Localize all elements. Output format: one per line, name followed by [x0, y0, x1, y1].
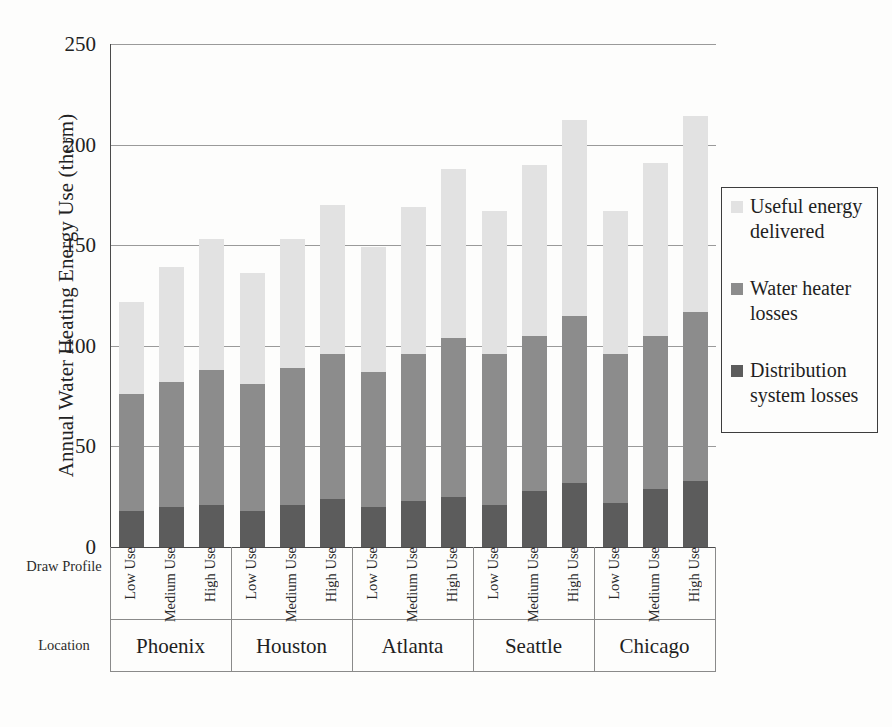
- bar-segment-water-heater-losses: [159, 382, 184, 507]
- bar-segment-useful-energy: [441, 169, 466, 338]
- bar-segment-useful-energy: [562, 120, 587, 315]
- plot-area: [110, 44, 715, 547]
- bar-segment-distribution-losses: [199, 505, 224, 547]
- category-group-divider: [352, 547, 353, 672]
- draw-profile-label: High Use: [323, 547, 340, 605]
- legend-label: Distribution system losses: [750, 358, 877, 408]
- bar-segment-distribution-losses: [522, 491, 547, 547]
- draw-profile-label: High Use: [565, 547, 582, 605]
- bar-stack[interactable]: [522, 165, 547, 547]
- draw-profile-label: Low Use: [364, 547, 381, 603]
- draw-profile-label: Medium Use: [646, 547, 663, 625]
- legend-swatch-icon: [731, 201, 743, 213]
- category-group-divider: [231, 547, 232, 672]
- bar-stack[interactable]: [683, 116, 708, 547]
- bar-stack[interactable]: [482, 211, 507, 547]
- bar-segment-water-heater-losses: [441, 338, 466, 497]
- y-tick-label-50: 50: [34, 434, 96, 459]
- location-cell-seattle: Seattle: [473, 620, 594, 672]
- bar-segment-useful-energy: [482, 211, 507, 354]
- legend-swatch-icon: [731, 283, 743, 295]
- bar-segment-water-heater-losses: [643, 336, 668, 489]
- draw-profile-header-label: Draw Profile: [20, 558, 108, 575]
- legend-swatch-icon: [731, 365, 743, 377]
- bar-segment-useful-energy: [401, 207, 426, 354]
- bar-stack[interactable]: [361, 247, 386, 547]
- chart-figure: Annual Water Heating Energy Use (therm) …: [0, 0, 892, 727]
- bar-stack[interactable]: [401, 207, 426, 547]
- bar-segment-water-heater-losses: [401, 354, 426, 501]
- location-cell-chicago: Chicago: [594, 620, 715, 672]
- bar-segment-useful-energy: [361, 247, 386, 372]
- bar-segment-water-heater-losses: [119, 394, 144, 511]
- location-cell-houston: Houston: [231, 620, 352, 672]
- y-axis-tick-labels: 050100150200250: [34, 0, 96, 727]
- bar-segment-distribution-losses: [361, 507, 386, 547]
- bar-segment-water-heater-losses: [240, 384, 265, 511]
- bar-stack[interactable]: [199, 239, 224, 547]
- bar-segment-distribution-losses: [159, 507, 184, 547]
- legend-label: Useful energy delivered: [750, 194, 877, 244]
- bar-segment-water-heater-losses: [361, 372, 386, 507]
- draw-profile-cell: Medium Use: [271, 547, 311, 620]
- bar-stack[interactable]: [159, 267, 184, 547]
- draw-profile-label: Medium Use: [525, 547, 542, 625]
- category-table-right-edge: [715, 547, 716, 672]
- draw-profile-label: Low Use: [122, 547, 139, 603]
- location-cell-atlanta: Atlanta: [352, 620, 473, 672]
- draw-profile-label: Medium Use: [404, 547, 421, 625]
- draw-profile-cell: Low Use: [594, 547, 634, 620]
- draw-profile-label: Medium Use: [162, 547, 179, 625]
- bar-segment-useful-energy: [240, 273, 265, 384]
- draw-profile-cell: Medium Use: [513, 547, 553, 620]
- bar-stack[interactable]: [240, 273, 265, 547]
- bar-segment-useful-energy: [119, 302, 144, 395]
- bar-stack[interactable]: [280, 239, 305, 547]
- bar-stack[interactable]: [441, 169, 466, 547]
- bar-segment-distribution-losses: [643, 489, 668, 547]
- draw-profile-cell: High Use: [433, 547, 473, 620]
- bar-segment-water-heater-losses: [522, 336, 547, 491]
- legend-entry[interactable]: Useful energy delivered: [731, 194, 877, 244]
- y-tick-label-150: 150: [34, 233, 96, 258]
- bar-stack[interactable]: [119, 302, 144, 547]
- draw-profile-label: Low Use: [606, 547, 623, 603]
- draw-profile-cell: Medium Use: [634, 547, 674, 620]
- bar-segment-useful-energy: [643, 163, 668, 336]
- draw-profile-label: High Use: [686, 547, 703, 605]
- draw-profile-cell: Low Use: [231, 547, 271, 620]
- draw-profile-cell: High Use: [191, 547, 231, 620]
- draw-profile-cell: Medium Use: [392, 547, 432, 620]
- bar-segment-water-heater-losses: [320, 354, 345, 499]
- bar-segment-useful-energy: [522, 165, 547, 336]
- bar-segment-distribution-losses: [441, 497, 466, 547]
- bar-segment-distribution-losses: [240, 511, 265, 547]
- bar-segment-useful-energy: [603, 211, 628, 354]
- y-tick-label-0: 0: [34, 535, 96, 560]
- bar-segment-useful-energy: [320, 205, 345, 354]
- bar-stack[interactable]: [562, 120, 587, 547]
- legend-label: Water heater losses: [750, 276, 877, 326]
- bar-segment-water-heater-losses: [562, 316, 587, 483]
- bar-segment-water-heater-losses: [683, 312, 708, 481]
- bar-stack[interactable]: [320, 205, 345, 547]
- legend-entry[interactable]: Distribution system losses: [731, 358, 877, 408]
- bar-segment-distribution-losses: [482, 505, 507, 547]
- bar-segment-useful-energy: [683, 116, 708, 311]
- draw-profile-cell: High Use: [675, 547, 715, 620]
- bar-stack[interactable]: [643, 163, 668, 547]
- bar-segment-distribution-losses: [401, 501, 426, 547]
- bar-segment-water-heater-losses: [482, 354, 507, 505]
- category-group-divider: [594, 547, 595, 672]
- y-tick-label-200: 200: [34, 132, 96, 157]
- bar-stack[interactable]: [603, 211, 628, 547]
- bar-segment-water-heater-losses: [280, 368, 305, 505]
- bar-segment-distribution-losses: [603, 503, 628, 547]
- legend-entry[interactable]: Water heater losses: [731, 276, 877, 326]
- bar-segment-distribution-losses: [683, 481, 708, 547]
- y-tick-label-100: 100: [34, 333, 96, 358]
- bar-segment-useful-energy: [159, 267, 184, 382]
- legend: Useful energy deliveredWater heater loss…: [721, 187, 878, 433]
- location-header-label: Location: [20, 637, 108, 654]
- draw-profile-label: Low Use: [485, 547, 502, 603]
